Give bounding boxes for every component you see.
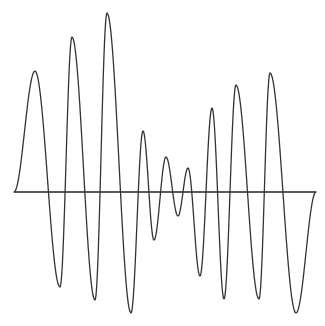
- waveform-chart: [0, 0, 325, 326]
- waveform-plot: [0, 0, 325, 326]
- waveform-line: [14, 13, 316, 313]
